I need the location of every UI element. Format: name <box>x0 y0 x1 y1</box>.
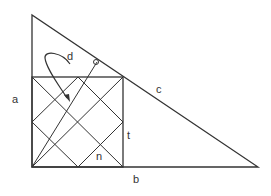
triangle-square-diagram: a b c d t n <box>0 0 271 196</box>
label-t: t <box>127 129 130 141</box>
d-arrowhead-icon <box>64 94 70 102</box>
label-n: n <box>96 150 102 162</box>
diamond-lattice <box>32 77 123 167</box>
label-a: a <box>12 93 19 105</box>
altitude-line <box>32 62 97 167</box>
label-c: c <box>156 83 162 95</box>
label-b: b <box>133 173 139 185</box>
right-triangle <box>32 15 258 167</box>
label-d: d <box>67 50 73 62</box>
